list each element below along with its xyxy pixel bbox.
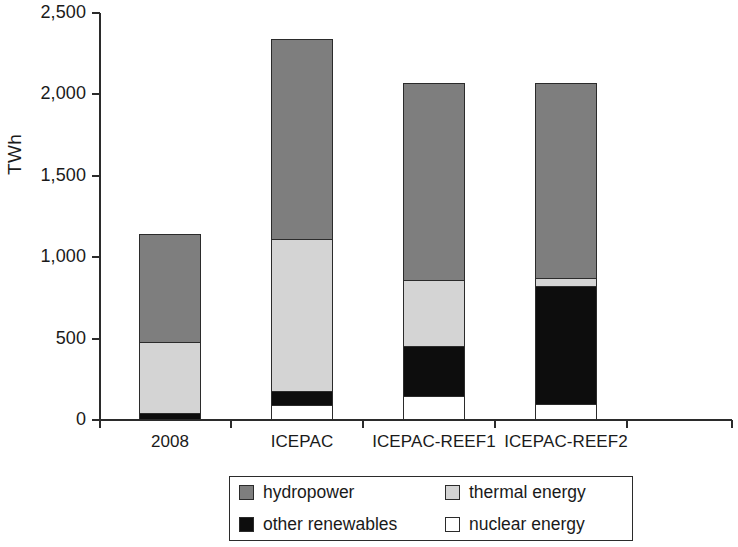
bar-chart: TWh 05001,0001,5002,0002,500 2008ICEPACI… <box>0 0 738 470</box>
bar-segment <box>535 286 597 404</box>
legend-label: nuclear energy <box>469 514 585 535</box>
bar-segment <box>535 83 597 278</box>
x-tick <box>731 420 733 428</box>
bar-segment <box>139 234 201 341</box>
x-tick <box>626 420 628 428</box>
y-tick-label: 1,000 <box>40 246 86 267</box>
bar-segment <box>403 280 465 346</box>
legend-label: hydropower <box>263 482 354 503</box>
legend-item: hydropower <box>239 482 445 503</box>
legend-swatch-icon <box>239 517 254 532</box>
x-tick <box>99 420 101 428</box>
legend-label: other renewables <box>263 514 397 535</box>
legend-swatch-icon <box>445 517 460 532</box>
bar-segment <box>535 278 597 286</box>
x-axis-label: ICEPAC-REEF2 <box>476 432 656 452</box>
bar-segment <box>403 346 465 396</box>
legend-item: other renewables <box>239 514 445 535</box>
y-tick-label: 2,000 <box>40 83 86 104</box>
bar-segment <box>271 39 333 239</box>
y-axis-title: TWh <box>4 134 26 175</box>
legend-item: nuclear energy <box>445 514 643 535</box>
bar-segment <box>139 342 201 413</box>
bar-segment <box>271 239 333 390</box>
bar-segment <box>271 391 333 406</box>
y-tick-label: 0 <box>76 409 86 430</box>
bar-segment <box>403 83 465 280</box>
y-tick-label: 500 <box>56 328 86 349</box>
legend-swatch-icon <box>445 485 460 500</box>
bar-segment <box>139 413 201 420</box>
y-tick-label: 2,500 <box>40 2 86 23</box>
x-tick <box>494 420 496 428</box>
bar-segment <box>271 405 333 420</box>
bar-segment <box>535 404 597 420</box>
bar-segment <box>403 396 465 420</box>
x-tick <box>362 420 364 428</box>
legend-label: thermal energy <box>469 482 586 503</box>
legend-item: thermal energy <box>445 482 643 503</box>
legend-swatch-icon <box>239 485 254 500</box>
y-tick-label: 1,500 <box>40 165 86 186</box>
chart-legend: hydropowerthermal energyother renewables… <box>229 476 633 541</box>
x-tick <box>230 420 232 428</box>
bars-container <box>99 13 732 420</box>
